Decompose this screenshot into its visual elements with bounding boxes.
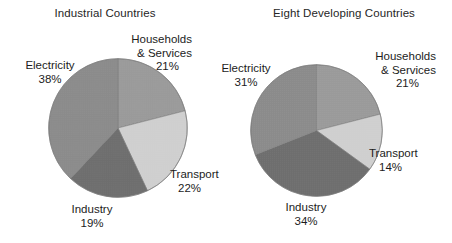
pie-chart-industrial-countries: Industrial Countries Households & Servic… [0,0,226,243]
slice-label-electricity: Electricity 31% [204,62,288,89]
slice-label-value: 34% [268,215,344,229]
slice-label-line1: Industry [286,201,327,213]
slice-label-line1: Households [375,50,436,62]
slice-label-line1: Electricity [25,59,74,71]
chart-title: Eight Developing Countries [231,7,452,19]
slice-label-electricity: Electricity 38% [8,59,92,86]
slice-label-transport: Transport 14% [369,147,441,174]
slice-label-value: 14% [369,161,441,175]
slice-label-line1: Transport [170,168,219,180]
slice-label-line1: Electricity [221,62,270,74]
slice-label-line2: & Services [381,64,436,76]
slice-label-line1: Transport [369,147,418,159]
slice-label-industry: Industry 34% [268,201,344,228]
pie-chart-eight-developing-countries: Eight Developing Countries Households & … [226,0,452,243]
slice-label-households: Households & Services 21% [96,33,192,74]
chart-title: Industrial Countries [0,7,218,19]
slice-label-line1: Industry [72,203,113,215]
slice-label-line2: & Services [137,47,192,59]
slice-label-value: 38% [8,73,92,87]
slice-label-households: Households & Services 21% [340,50,436,91]
slice-label-value: 21% [96,60,192,74]
slice-label-industry: Industry 19% [54,203,130,230]
slice-label-value: 31% [204,76,288,90]
slice-label-line1: Households [131,33,192,45]
slice-label-value: 21% [340,77,436,91]
slice-label-value: 19% [54,217,130,231]
